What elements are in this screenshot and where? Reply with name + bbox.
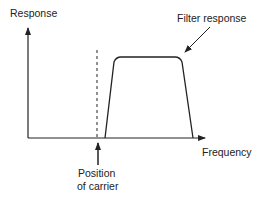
y-axis-label: Response xyxy=(10,7,57,19)
filter-response-pointer-arrow xyxy=(185,27,210,52)
filter-response-label: Filter response xyxy=(177,12,247,24)
filter-response-diagram: Response Frequency Position of carrier F… xyxy=(0,0,259,197)
filter-response-curve xyxy=(105,57,193,138)
carrier-label-line1: Position xyxy=(78,167,116,179)
carrier-label-line2: of carrier xyxy=(77,180,119,192)
x-axis-label: Frequency xyxy=(202,146,252,158)
